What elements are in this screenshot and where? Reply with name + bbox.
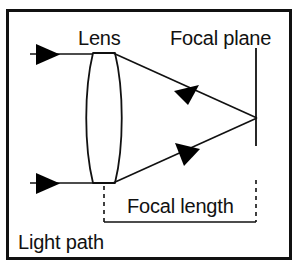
ray-arrowhead-top-icon <box>36 44 60 65</box>
converging-arrowhead-top-icon <box>174 85 199 105</box>
biconvex-lens-shape <box>86 53 122 183</box>
converging-ray-top-line <box>113 53 257 118</box>
label-light-path: Light path <box>18 231 104 253</box>
diagram-canvas: Lens Focal plane Focal length Light path <box>0 0 300 279</box>
converging-ray-bottom-group <box>113 118 257 183</box>
label-focal-plane: Focal plane <box>170 27 271 49</box>
label-lens: Lens <box>78 27 121 49</box>
incoming-ray-bottom-group <box>30 173 96 194</box>
converging-ray-top-group <box>113 53 257 118</box>
ray-arrowhead-bottom-icon <box>36 173 60 194</box>
optics-diagram: Lens Focal plane Focal length Light path <box>0 0 300 279</box>
converging-arrowhead-bottom-icon <box>175 143 200 166</box>
label-focal-length: Focal length <box>127 195 234 217</box>
